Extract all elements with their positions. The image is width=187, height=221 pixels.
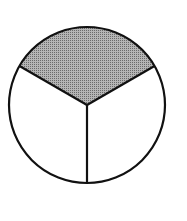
fraction-circle-diagram [0, 0, 187, 221]
shaded-sector [20, 27, 155, 105]
